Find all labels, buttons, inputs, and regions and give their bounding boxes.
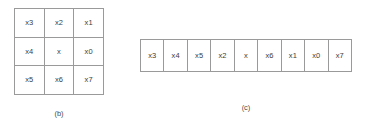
grid-cell-r1c1-center: x xyxy=(45,38,75,67)
strip-cell-6: x1 xyxy=(282,40,305,72)
caption-panel-b: (b) xyxy=(14,110,104,118)
strip-cell-4: x xyxy=(235,40,258,72)
panel-b: x3 x2 x1 x4 x x0 x5 x6 x7 xyxy=(14,8,104,95)
strip-cell-3: x2 xyxy=(211,40,234,72)
grid-cell-r1c2: x0 xyxy=(74,38,104,67)
grid-cell-r2c0: x5 xyxy=(15,66,45,95)
strip-cell-2: x5 xyxy=(188,40,211,72)
grid-cell-r0c0: x3 xyxy=(15,9,45,38)
figure-canvas: x3 x2 x1 x4 x x0 x5 x6 x7 x3 x4 x5 x2 x … xyxy=(0,0,365,130)
strip-cell-8: x7 xyxy=(329,40,352,72)
grid-cell-r1c0: x4 xyxy=(15,38,45,67)
strip-cell-7: x0 xyxy=(305,40,328,72)
strip-cell-5: x6 xyxy=(258,40,281,72)
strip-cell-0: x3 xyxy=(141,40,164,72)
grid-cell-r2c1: x6 xyxy=(45,66,75,95)
strip-cell-1: x4 xyxy=(164,40,187,72)
panel-c: x3 x4 x5 x2 x x6 x1 x0 x7 xyxy=(140,39,352,72)
grid-cell-r2c2: x7 xyxy=(74,66,104,95)
grid-cell-r0c2: x1 xyxy=(74,9,104,38)
neighbourhood-grid-3x3: x3 x2 x1 x4 x x0 x5 x6 x7 xyxy=(14,8,104,95)
caption-panel-c: (c) xyxy=(140,104,352,112)
linear-strip-1x9: x3 x4 x5 x2 x x6 x1 x0 x7 xyxy=(140,39,352,72)
grid-cell-r0c1: x2 xyxy=(45,9,75,38)
